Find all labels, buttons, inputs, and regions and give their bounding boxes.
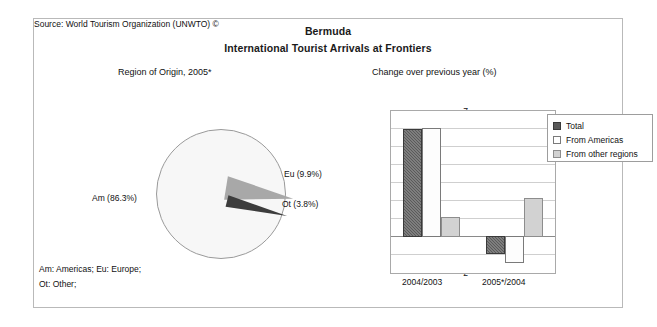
- bar-chart: 7 6 5 4 3 2 1 0 -1 -2 2004/2003: [370, 105, 657, 295]
- legend-item-other-regions: From other regions: [553, 147, 647, 161]
- footnote-line-2: Ot: Other;: [39, 279, 76, 289]
- pie-label-ot: Ot (3.8%): [282, 199, 318, 209]
- page-subtitle: International Tourist Arrivals at Fronti…: [34, 42, 622, 54]
- pie-label-eu: Eu (9.9%): [284, 169, 322, 179]
- legend-swatch-americas: [553, 136, 561, 144]
- bar-total-2004-2003: [403, 129, 422, 237]
- pie-chart: Am (86.3%) Eu (9.9%) Ot (3.8%): [134, 119, 334, 269]
- chart-legend: Total From Americas From other regions: [547, 114, 653, 162]
- legend-swatch-other-regions: [553, 150, 561, 158]
- bar-other-2005-2004: [524, 198, 543, 237]
- bar-plot-area: [390, 110, 556, 274]
- bar-total-2005-2004: [486, 236, 505, 254]
- pie-chart-title: Region of Origin, 2005*: [118, 67, 212, 77]
- x-axis-label-2004-2003: 2004/2003: [402, 277, 442, 287]
- bar-americas-2004-2003: [422, 128, 441, 237]
- gridline: [391, 254, 555, 255]
- bar-americas-2005-2004: [505, 236, 524, 263]
- bar-other-2004-2003: [441, 217, 460, 237]
- footnote-line-1: Am: Americas; Eu: Europe;: [39, 264, 141, 274]
- bar-chart-title: Change over previous year (%): [372, 67, 497, 77]
- legend-label-other-regions: From other regions: [566, 149, 638, 159]
- legend-swatch-total: [553, 122, 561, 130]
- x-axis-label-2005-2004: 2005*/2004: [482, 277, 526, 287]
- chart-frame: Bermuda International Tourist Arrivals a…: [33, 18, 623, 308]
- pie-label-am: Am (86.3%): [92, 193, 137, 203]
- page-title: Bermuda: [34, 25, 622, 37]
- legend-item-total: Total: [553, 119, 647, 133]
- legend-item-americas: From Americas: [553, 133, 647, 147]
- legend-label-total: Total: [566, 121, 584, 131]
- legend-label-americas: From Americas: [566, 135, 623, 145]
